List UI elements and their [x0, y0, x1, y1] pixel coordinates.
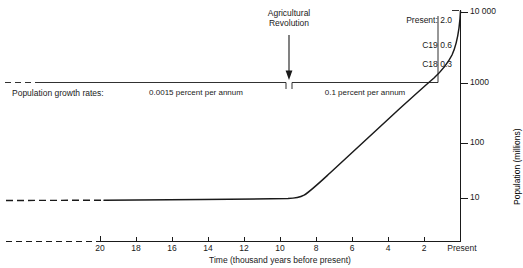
axis-group	[6, 10, 468, 242]
x-tick-label-16: 16	[167, 244, 176, 254]
agricultural-revolution-arrow	[286, 35, 293, 80]
y-tick-label-100: 100	[470, 138, 484, 148]
c19-rate-label: C19 0.6	[422, 41, 452, 51]
x-tick-label-12: 12	[239, 244, 248, 254]
population-curve-group	[6, 11, 461, 201]
x-tick-label-2: 2	[422, 244, 427, 254]
y-axis-title: Population (millions)	[512, 128, 522, 205]
x-tick-label-20: 20	[95, 244, 104, 254]
growth-rate-brackets	[5, 16, 438, 89]
figure-canvas: 20 18 16 14 12 10 8 6 4 2 Present Time (…	[0, 0, 523, 268]
c18-rate-label: C18 0.3	[422, 60, 452, 70]
x-tick-label-18: 18	[131, 244, 140, 254]
x-tick-label-10: 10	[275, 244, 284, 254]
y-tick-label-1000: 1000	[470, 78, 489, 88]
y-tick-label-10000: 10 000	[470, 7, 496, 17]
population-curve	[104, 11, 461, 200]
x-tick-label-present: Present	[447, 244, 476, 254]
agricultural-revolution-line2: Revolution	[268, 19, 311, 29]
present-rate-label: Present: 2.0	[406, 16, 452, 26]
growth-rate-early-label: 0.0015 percent per annum	[149, 89, 243, 98]
y-tick-label-10: 10	[470, 193, 479, 203]
bracket-late	[292, 16, 438, 89]
x-tick-marks	[101, 234, 461, 242]
x-tick-label-6: 6	[350, 244, 355, 254]
x-tick-label-4: 4	[386, 244, 391, 254]
x-tick-label-8: 8	[314, 244, 319, 254]
growth-rates-caption: Population growth rates:	[12, 89, 104, 99]
x-axis-title: Time (thousand years before present)	[209, 256, 351, 266]
y-tick-marks	[461, 13, 469, 199]
agricultural-revolution-label: Agricultural Revolution	[268, 9, 311, 28]
x-tick-label-14: 14	[203, 244, 212, 254]
growth-rate-late-label: 0.1 percent per annum	[325, 89, 406, 98]
